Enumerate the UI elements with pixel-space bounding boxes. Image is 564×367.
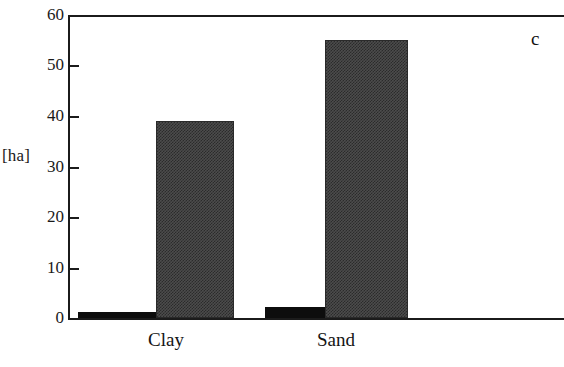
panel-label-c: c xyxy=(531,28,539,50)
y-tick-label-50: 50 xyxy=(20,56,64,74)
y-tick-mark xyxy=(70,318,79,320)
plot-frame-baseline xyxy=(68,318,564,320)
bar-chart: [ha] c 60 50 40 30 20 10 0 Clay Sand xyxy=(0,0,564,367)
x-tick-label-clay: Clay xyxy=(106,328,226,352)
y-tick-label-10: 10 xyxy=(20,259,64,277)
y-tick-label-0: 0 xyxy=(20,309,64,327)
y-tick-label-60: 60 xyxy=(20,6,64,24)
bar-sand-series-2 xyxy=(325,40,408,318)
x-tick-label-sand: Sand xyxy=(276,328,396,352)
y-tick-label-30: 30 xyxy=(20,158,64,176)
y-tick-label-40: 40 xyxy=(20,107,64,125)
bar-clay-series-1 xyxy=(78,312,156,318)
y-tick-mark xyxy=(70,268,79,270)
bar-sand-series-1 xyxy=(265,307,325,318)
y-tick-label-20: 20 xyxy=(20,208,64,226)
bar-clay-series-2 xyxy=(156,121,234,318)
y-tick-mark xyxy=(70,167,79,169)
y-tick-mark xyxy=(70,217,79,219)
y-tick-mark xyxy=(70,15,79,17)
plot-frame-top xyxy=(68,15,564,17)
y-tick-mark xyxy=(70,65,79,67)
y-tick-mark xyxy=(70,116,79,118)
